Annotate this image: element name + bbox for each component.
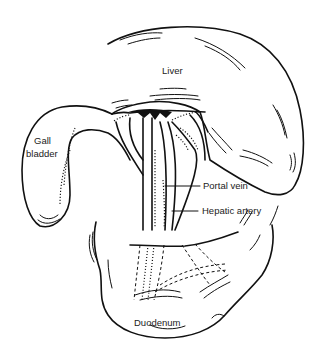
label-duodenum: Duodenum (134, 317, 181, 328)
anatomy-diagram: Liver Gall bladder Portal vein Hepatic a… (0, 0, 319, 363)
duodenum (89, 206, 278, 338)
truncated-caption (10, 353, 310, 363)
hepatic-ducts-and-vessels (116, 112, 208, 230)
label-gall-bladder-line2: bladder (26, 148, 58, 159)
label-portal-vein: Portal vein (203, 180, 248, 191)
label-hepatic-artery: Hepatic artery (202, 205, 261, 216)
label-gall-bladder-line1: Gall (34, 135, 51, 146)
gall-bladder (22, 106, 130, 227)
label-liver: Liver (162, 65, 183, 76)
